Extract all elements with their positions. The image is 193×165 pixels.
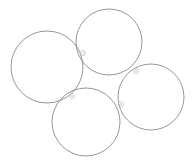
tangency-point-right-bottom-dot-icon [120,103,122,105]
tangent-circles-figure [0,0,193,165]
canvas-background [0,0,193,165]
tangency-point-top-right-dot-icon [135,70,137,72]
diagram-canvas [0,0,193,165]
tangency-point-left-top-dot-icon [82,52,84,54]
tangency-point-left-bottom-dot-icon [71,95,73,97]
